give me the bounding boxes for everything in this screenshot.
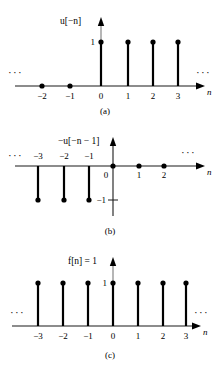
signal-label-c: f[n] = 1: [68, 256, 97, 266]
tick-label-c-4: 1: [136, 331, 141, 341]
tick-label-a-5: 3: [176, 91, 181, 101]
stem-head-n2-a: [150, 39, 155, 44]
panel-b-plot: −3 −2 −1 0 1 2 −1 −u[−n − 1] n ··· ··· (…: [0, 120, 221, 240]
y-axis-arrowhead-a: [98, 17, 104, 26]
panel-c-plot: −3 −2 −1 0 1 2 3 1 f[n] = 1 n ··· ··· (c…: [0, 240, 221, 370]
tick-label-b-neg-1: −2: [59, 151, 69, 161]
caption-c: (c): [105, 350, 115, 360]
tick-label-b-neg-0: −3: [33, 151, 43, 161]
tick-label-a-3: 1: [126, 91, 131, 101]
tick-label-c-5: 2: [161, 331, 166, 341]
left-ellipsis-a: ···: [8, 66, 23, 78]
stem-head-nminus2-b: [61, 197, 66, 202]
stem-head-nminus1-c: [85, 280, 90, 285]
sample-n0-b: [110, 163, 115, 168]
stem-head-n2-c: [160, 280, 165, 285]
axis-label-c: n: [203, 327, 208, 337]
stem-head-n3-c: [183, 280, 188, 285]
axis-label-b: n: [207, 167, 212, 177]
stem-head-n1-a: [125, 39, 130, 44]
x-axis-arrowhead-b: [196, 163, 205, 170]
left-ellipsis-c: ···: [10, 306, 25, 318]
tick-label-a-0: −2: [37, 91, 47, 101]
tick-label-a-1: −1: [65, 91, 75, 101]
tick-label-c-6: 3: [184, 331, 189, 341]
axis-label-a: n: [207, 87, 212, 97]
right-ellipsis-a: ···: [196, 66, 211, 78]
signal-label-b: −u[−n − 1]: [58, 136, 99, 146]
panel-a-plot: −2 −1 0 1 2 3 1 u[−n] n ··· ··· (a): [0, 0, 221, 120]
tick-label-c-2: −1: [83, 331, 93, 341]
y-axis-arrowhead-b: [110, 137, 116, 146]
panel-b: −3 −2 −1 0 1 2 −1 −u[−n − 1] n ··· ··· (…: [0, 120, 221, 240]
tick-label-b-pos-2: 2: [162, 170, 167, 180]
caption-b: (b): [105, 226, 116, 236]
tick-label-b-pos-0: 0: [104, 170, 109, 180]
sample-n2-b: [161, 163, 166, 168]
y-axis-arrowhead-c: [110, 257, 116, 266]
stem-head-n3-a: [175, 39, 180, 44]
tick-label-c-1: −2: [58, 331, 68, 341]
stem-head-n0-c: [110, 280, 115, 285]
tick-label-b-neg-2: −1: [84, 151, 94, 161]
sample-nminus1-a: [67, 83, 72, 88]
tick-label-a-2: 0: [99, 91, 104, 101]
stem-head-n0-a: [98, 39, 103, 44]
amplitude-label-c: 1: [103, 278, 108, 288]
tick-label-c-3: 0: [111, 331, 116, 341]
caption-a: (a): [100, 106, 110, 116]
stem-head-nminus2-c: [60, 280, 65, 285]
amplitude-label-a: 1: [91, 37, 96, 47]
stem-head-n1-c: [135, 280, 140, 285]
stem-head-nminus1-b: [86, 197, 91, 202]
signal-figure: −2 −1 0 1 2 3 1 u[−n] n ··· ··· (a): [0, 0, 221, 370]
right-ellipsis-b: ···: [181, 146, 196, 158]
tick-label-a-4: 2: [151, 91, 156, 101]
tick-label-c-0: −3: [33, 331, 43, 341]
x-axis-arrowhead-a: [196, 83, 205, 90]
panel-a: −2 −1 0 1 2 3 1 u[−n] n ··· ··· (a): [0, 0, 221, 120]
signal-label-a: u[−n]: [60, 16, 81, 26]
left-ellipsis-b: ···: [8, 149, 23, 161]
sample-n1-b: [136, 163, 141, 168]
stem-head-nminus3-c: [35, 280, 40, 285]
right-ellipsis-c: ···: [194, 306, 209, 318]
x-axis-arrowhead-c: [192, 323, 201, 330]
amplitude-label-b: −1: [96, 195, 106, 205]
tick-label-b-pos-1: 1: [137, 170, 142, 180]
stem-head-nminus3-b: [35, 197, 40, 202]
panel-c: −3 −2 −1 0 1 2 3 1 f[n] = 1 n ··· ··· (c…: [0, 240, 221, 370]
sample-nminus2-a: [39, 83, 44, 88]
